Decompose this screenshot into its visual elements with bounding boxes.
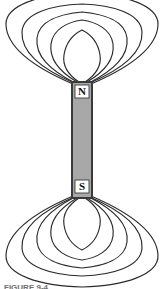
field-line-bottom-1 bbox=[64, 198, 101, 250]
field-line-bottom-5 bbox=[6, 196, 158, 287]
field-line-left-4 bbox=[22, 4, 142, 83]
field-diagram-svg: N S bbox=[0, 0, 161, 289]
south-pole-label: S bbox=[79, 180, 85, 192]
south-pole-marker: S bbox=[75, 180, 89, 193]
field-line-bottom-4 bbox=[22, 197, 142, 276]
field-lines-left bbox=[6, 0, 158, 84]
field-line-left-1 bbox=[64, 30, 101, 82]
magnetic-field-figure: N S FIGURE 9-4 bbox=[0, 0, 161, 289]
north-pole-marker: N bbox=[75, 85, 89, 98]
figure-caption: FIGURE 9-4 bbox=[4, 283, 154, 289]
field-line-left-5 bbox=[6, 0, 158, 84]
field-line-left-2 bbox=[51, 20, 113, 82]
north-pole-label: N bbox=[78, 85, 86, 97]
field-lines-bottom bbox=[6, 196, 158, 287]
field-line-bottom-2 bbox=[51, 198, 113, 260]
